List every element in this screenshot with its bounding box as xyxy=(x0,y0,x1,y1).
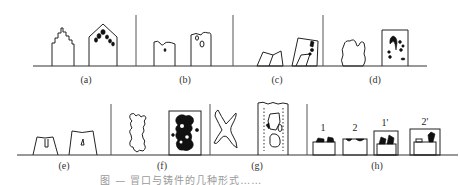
panel-d-drawing xyxy=(342,30,409,66)
label-panel-d: (d) xyxy=(369,74,381,85)
panel-e-drawing xyxy=(33,131,97,155)
panel-h-drawing xyxy=(313,129,440,155)
label-panel-b: (b) xyxy=(179,74,191,85)
panel-g-drawing xyxy=(214,102,288,155)
label-panel-f: (f) xyxy=(157,160,167,171)
label-h-1-prime: 1' xyxy=(382,117,389,128)
figure-caption: 图 — 冒口与铸件的几种形式…… xyxy=(100,172,262,185)
label-panel-e: (e) xyxy=(58,160,69,171)
label-panel-g: (g) xyxy=(251,160,263,171)
figure-drawing xyxy=(0,0,460,185)
label-h-1: 1 xyxy=(321,122,326,133)
label-h-2-prime: 2' xyxy=(422,116,429,127)
figure: (a) (b) (c) (d) (e) (f) (g) (h) 1 2 1' 2… xyxy=(0,0,460,185)
label-panel-h: (h) xyxy=(371,160,383,171)
panel-f-drawing xyxy=(130,111,201,155)
panel-c-drawing xyxy=(257,38,318,66)
label-panel-a: (a) xyxy=(80,74,91,85)
label-panel-c: (c) xyxy=(271,74,282,85)
panel-a-drawing xyxy=(52,24,117,66)
label-h-2: 2 xyxy=(353,122,358,133)
panel-b-drawing xyxy=(154,32,211,66)
